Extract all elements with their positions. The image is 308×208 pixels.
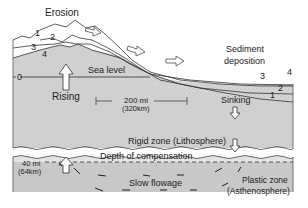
- plastic-zone-label: Plastic zone: [242, 175, 288, 185]
- sinking-label: Sinking: [221, 95, 251, 105]
- surface-number-3-left: 3: [31, 42, 36, 52]
- surface-number-4-left: 4: [42, 49, 47, 59]
- sea-level-number: 0: [17, 72, 22, 82]
- rising-label: Rising: [52, 91, 80, 102]
- depth-of-compensation-label: Depth of compensation: [100, 151, 193, 161]
- rigid-zone-label: Rigid zone (Lithosphere): [128, 136, 226, 146]
- surface-number-2-right: 2: [278, 83, 283, 93]
- erosion-label: Erosion: [45, 7, 79, 18]
- sediment-label-line2: deposition: [224, 56, 265, 66]
- surface-number-1-right: 1: [270, 90, 275, 100]
- depth-km-label: (64km): [18, 167, 42, 176]
- sediment-label-line1: Sediment: [226, 44, 265, 54]
- erosion-arrow-2-icon: [127, 46, 145, 56]
- slow-flowage-label: Slow flowage: [129, 178, 182, 188]
- erosion-arrow-1-icon: [85, 27, 101, 36]
- surface-number-4-right: 4: [287, 67, 292, 77]
- scale-km-label: (320km): [122, 104, 150, 113]
- surface-number-3-right: 3: [260, 71, 265, 81]
- transport-arrow-icon: [166, 56, 184, 66]
- surface-number-2-left: 2: [50, 32, 55, 42]
- isostasy-diagram: Erosion Sediment deposition Sea level Ri…: [0, 0, 308, 208]
- asthenosphere-label: (Asthenosphere): [227, 186, 290, 196]
- surface-number-1-left: 1: [35, 28, 40, 38]
- sea-level-label: Sea level: [88, 65, 125, 75]
